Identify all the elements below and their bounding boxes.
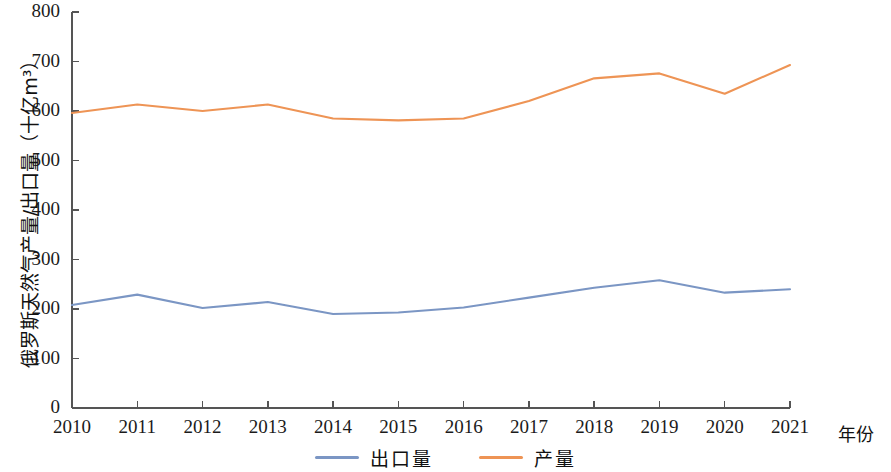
- chart-figure: 0100200300400500600700800 20102011201220…: [0, 0, 891, 472]
- line-chart-plot: [0, 0, 891, 472]
- chart-legend: 出口量产量: [0, 444, 891, 471]
- legend-swatch-icon: [479, 456, 523, 459]
- legend-item-0[interactable]: 出口量: [315, 444, 433, 471]
- x-axis-unit-label: 年份: [838, 420, 874, 446]
- x-tick-label: 2021: [750, 416, 830, 438]
- legend-label: 产量: [534, 444, 576, 471]
- y-axis-label: 俄罗斯天然气产量/出口量（十亿m³）: [15, 30, 42, 390]
- y-tick-label: 800: [0, 0, 60, 22]
- series-line-1: [72, 65, 790, 120]
- chart-series: [72, 65, 790, 314]
- legend-label: 出口量: [370, 444, 433, 471]
- y-tick-label: 0: [0, 396, 60, 418]
- legend-swatch-icon: [315, 456, 359, 459]
- chart-axes: [72, 12, 790, 408]
- legend-item-1[interactable]: 产量: [479, 444, 576, 471]
- series-line-0: [72, 280, 790, 314]
